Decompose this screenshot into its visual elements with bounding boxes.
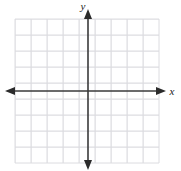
x-axis-left-arrowhead xyxy=(5,87,15,95)
x-axis-label: x xyxy=(169,85,175,97)
coordinate-plane-svg: y x xyxy=(0,0,181,171)
x-axis-right-arrowhead xyxy=(156,87,166,95)
y-axis-label: y xyxy=(80,0,86,12)
coordinate-plane-figure: y x xyxy=(0,0,181,171)
y-axis-bottom-arrowhead xyxy=(84,160,92,170)
